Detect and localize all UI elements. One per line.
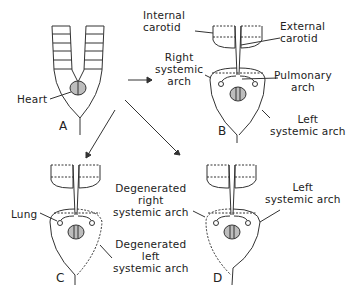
label-external-carotid: Externalcarotid — [280, 20, 325, 44]
label-lung: Lung — [11, 208, 37, 220]
panel-label-c: C — [56, 272, 65, 284]
label-left-systemic-arch-d: Leftsystemic arch — [265, 181, 341, 205]
label-degenerated-right-systemic-arch: Degeneratedrightsystemic arch — [113, 182, 189, 218]
label-internal-carotid: Internalcarotid — [143, 9, 185, 33]
arrows — [86, 77, 180, 158]
label-right-systemic-arch: Rightsystemicarch — [155, 51, 203, 87]
panel-b-drawing — [195, 26, 280, 143]
panel-c-drawing — [40, 165, 112, 285]
panel-label-d: D — [213, 272, 222, 284]
label-heart: Heart — [17, 93, 47, 105]
label-left-systemic-arch-b: Leftsystemic arch — [270, 113, 346, 137]
label-pulmonary-arch: Pulmonaryarch — [274, 69, 332, 93]
label-degenerated-left-systemic-arch: Degeneratedleftsystemic arch — [113, 238, 189, 274]
panel-label-a: A — [59, 120, 67, 132]
panel-label-b: B — [218, 125, 226, 137]
